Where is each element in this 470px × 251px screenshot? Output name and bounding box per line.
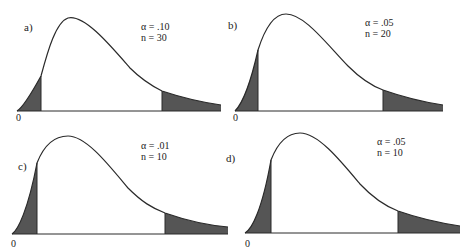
panel-d-label: d): [226, 153, 235, 164]
panel-a-alpha: α = .10: [141, 21, 169, 32]
panel-b-zero-tick: 0: [233, 113, 238, 123]
panel-d-alpha: α = .05: [377, 136, 405, 147]
panel-a-curve: [17, 18, 221, 111]
panel-c-plot: [12, 136, 228, 234]
panel-d-curve: [245, 133, 460, 233]
panel-b-curve: [235, 14, 443, 111]
panel-c-curve: [12, 136, 228, 234]
panel-b-plot: [235, 14, 443, 111]
panel-b-left-tail: [235, 50, 258, 111]
panel-d-zero-tick: 0: [245, 239, 250, 249]
panel-a-plot: [17, 18, 221, 111]
panel-c-label: c): [18, 161, 27, 172]
panel-c-alpha: α = .01: [141, 140, 169, 151]
panel-b-n: n = 20: [365, 28, 391, 39]
panel-b-label: b): [228, 20, 237, 31]
panel-d-n: n = 10: [377, 147, 403, 158]
figure-canvas: [0, 0, 470, 251]
panel-c-n: n = 10: [141, 151, 167, 162]
panel-d-plot: [245, 133, 460, 233]
panel-a-label: a): [24, 22, 33, 33]
panel-c-left-tail: [12, 163, 37, 234]
panel-d-left-tail: [245, 160, 271, 233]
panel-a-n: n = 30: [141, 32, 167, 43]
panel-c-zero-tick: 0: [11, 239, 16, 249]
panel-b-alpha: α = .05: [365, 17, 393, 28]
panel-a-zero-tick: 0: [16, 113, 21, 123]
